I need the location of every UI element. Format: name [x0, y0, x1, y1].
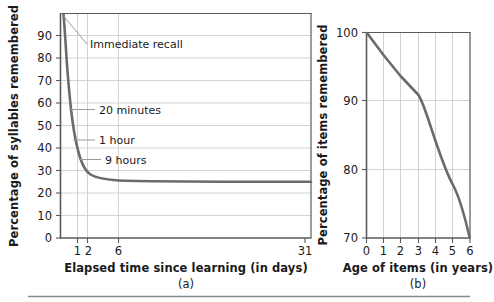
panel-a-ytick-60: 60 — [37, 96, 52, 110]
panel-b-ytick-90: 90 — [343, 94, 358, 108]
panel-b-xtick-3: 3 — [415, 244, 422, 258]
panel-b-xtick-6: 6 — [466, 244, 473, 258]
panel-a-ytick-80: 80 — [37, 51, 52, 65]
panel-a-horizontal-gridlines — [60, 36, 311, 216]
panel-b-ytick-80: 80 — [343, 163, 358, 177]
panel-a-xtick-1: 1 — [74, 244, 81, 258]
panel-b-xtick-0: 0 — [363, 244, 370, 258]
leader-immediate-recall — [64, 16, 88, 44]
panel-a-ytick-40: 40 — [37, 141, 52, 155]
panel-a-ytick-20: 20 — [37, 186, 52, 200]
figure-container: 90 80 70 60 50 40 30 20 10 0 1 2 6 31 — [0, 0, 494, 302]
panel-a-y-axis-title: Percentage of syllables remembered — [7, 5, 21, 247]
two-panel-memory-figure: 90 80 70 60 50 40 30 20 10 0 1 2 6 31 — [0, 0, 494, 302]
panel-a-ytick-50: 50 — [37, 119, 52, 133]
annotation-label-20-minutes: 20 minutes — [99, 104, 161, 117]
panel-a-x-axis-title: Elapsed time since learning (in days) — [64, 261, 308, 275]
panel-a-ytick-90: 90 — [37, 29, 52, 43]
panel-a-xtick-31: 31 — [298, 244, 313, 258]
panel-b-xtick-4: 4 — [432, 244, 439, 258]
panel-a-ytick-30: 30 — [37, 164, 52, 178]
panel-b-vertical-gridlines — [384, 32, 453, 238]
panel-a-letter: (a) — [178, 277, 194, 291]
panel-a-ytick-10: 10 — [37, 209, 52, 223]
panel-b-ytick-100: 100 — [336, 26, 358, 40]
panel-a-xtick-2: 2 — [85, 244, 92, 258]
panel-b-xtick-2: 2 — [397, 244, 404, 258]
panel-b-x-axis-title: Age of items (in years) — [343, 261, 493, 275]
annotation-label-9-hours: 9 hours — [105, 154, 147, 167]
panel-a: 90 80 70 60 50 40 30 20 10 0 1 2 6 31 — [7, 5, 312, 291]
panel-b: 100 90 80 70 0 1 2 3 4 5 6 Percentage of… — [316, 25, 493, 291]
annotation-label-immediate-recall: Immediate recall — [90, 38, 183, 51]
panel-b-y-axis-title: Percentage of items remembered — [316, 25, 330, 246]
annotation-label-1-hour: 1 hour — [99, 134, 135, 147]
panel-b-xtick-5: 5 — [449, 244, 456, 258]
panel-b-xtick-1: 1 — [380, 244, 387, 258]
panel-a-xtick-6: 6 — [115, 244, 122, 258]
panel-a-ytick-0: 0 — [45, 231, 52, 245]
panel-a-ytick-70: 70 — [37, 74, 52, 88]
panel-b-horizontal-gridlines — [366, 101, 470, 170]
panel-b-letter: (b) — [410, 277, 426, 291]
panel-b-ytick-70: 70 — [343, 231, 358, 245]
